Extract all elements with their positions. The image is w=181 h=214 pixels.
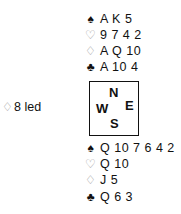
north-spades: A K 5 [100,12,132,26]
compass-box: N W E S [89,81,139,136]
south-hearts-row: ♡Q 10 [83,156,129,172]
heart-icon: ♡ [83,27,99,43]
compass-east: E [125,99,134,112]
south-diamonds-row: ♢J 5 [83,172,118,188]
spade-icon: ♠ [83,11,99,27]
north-hearts: 9 7 4 2 [100,28,142,42]
diamond-icon: ♢ [2,99,13,115]
compass-west: W [96,102,108,115]
heart-icon: ♡ [83,156,99,172]
south-clubs-row: ♣Q 6 3 [83,189,133,205]
north-hearts-row: ♡9 7 4 2 [83,27,142,43]
compass-north: N [109,86,118,99]
north-spades-row: ♠A K 5 [83,11,132,27]
south-spades: Q 10 7 6 4 2 [100,141,175,155]
north-clubs: A 10 4 [100,60,138,74]
south-hearts: Q 10 [100,157,129,171]
lead-text: 8 led [14,100,41,114]
south-spades-row: ♠Q 10 7 6 4 2 [83,140,175,156]
diamond-icon: ♢ [83,43,99,59]
diamond-icon: ♢ [83,172,99,188]
club-icon: ♣ [83,59,99,75]
opening-lead: ♢8 led [2,99,41,115]
north-diamonds-row: ♢A Q 10 [83,43,141,59]
south-diamonds: J 5 [100,173,118,187]
south-clubs: Q 6 3 [100,190,133,204]
spade-icon: ♠ [83,140,99,156]
compass-south: S [110,117,119,130]
north-diamonds: A Q 10 [100,44,141,58]
club-icon: ♣ [83,189,99,205]
north-clubs-row: ♣A 10 4 [83,59,138,75]
